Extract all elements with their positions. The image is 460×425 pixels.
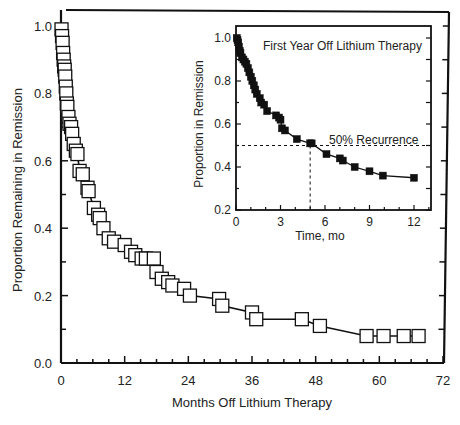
data-point-filled-square <box>411 174 418 181</box>
data-point-open-square <box>216 299 229 312</box>
inset-y-tick-label: 0.6 <box>214 117 231 131</box>
data-point-filled-square <box>379 172 386 179</box>
inset-y-tick-label: 0.2 <box>214 203 231 217</box>
data-point-filled-square <box>351 164 358 171</box>
main-x-axis-title: Months Off Lithium Therapy <box>172 395 332 410</box>
data-point-filled-square <box>293 136 300 143</box>
data-point-open-square <box>313 319 326 332</box>
main-x-tick-label: 24 <box>181 373 195 388</box>
fifty-percent-annotation: 50% Recurrence <box>329 133 419 147</box>
data-point-open-square <box>76 168 89 181</box>
data-point-filled-square <box>264 108 271 115</box>
data-point-open-square <box>377 330 390 343</box>
data-point-filled-square <box>366 168 373 175</box>
main-x-tick-label: 0 <box>57 373 64 388</box>
main-x-tick-label: 60 <box>372 373 386 388</box>
data-point-open-square <box>82 185 95 198</box>
inset-y-tick-label: 1.0 <box>214 31 231 45</box>
inset-x-tick-label: 3 <box>277 215 284 229</box>
main-y-tick-label: 1.0 <box>34 19 52 34</box>
data-point-open-square <box>147 252 160 265</box>
data-point-open-square <box>250 313 263 326</box>
data-point-open-square <box>397 330 410 343</box>
data-point-filled-square <box>261 101 268 108</box>
data-point-open-square <box>360 330 373 343</box>
data-point-open-square <box>412 330 425 343</box>
data-point-filled-square <box>339 157 346 164</box>
survival-chart: 01224364860720.00.20.40.60.81.0 Months O… <box>0 0 460 425</box>
main-y-tick-label: 0.6 <box>34 154 52 169</box>
data-point-filled-square <box>281 127 288 134</box>
inset-x-tick-label: 9 <box>366 215 373 229</box>
inset-x-tick-label: 6 <box>322 215 329 229</box>
inset-x-axis-title: Time, mo <box>295 229 345 243</box>
inset-x-tick-label: 0 <box>233 215 240 229</box>
data-point-open-square <box>183 289 196 302</box>
inset-title: First Year Off Lithium Therapy <box>263 39 422 53</box>
main-y-axis-title: Proportion Remaining in Remission <box>10 88 25 292</box>
main-y-tick-label: 0.2 <box>34 289 52 304</box>
inset-y-axis-title: Proportion in Remission <box>192 60 206 187</box>
inset-y-tick-label: 0.8 <box>214 74 231 88</box>
inset-chart: 0369120.20.40.60.81.0 First Year Off Lit… <box>192 26 431 243</box>
data-point-open-square <box>71 148 84 161</box>
main-x-tick-label: 72 <box>436 373 450 388</box>
main-x-tick-label: 12 <box>117 373 131 388</box>
main-y-tick-label: 0.0 <box>34 356 52 371</box>
main-x-tick-label: 48 <box>308 373 322 388</box>
data-point-filled-square <box>323 151 330 158</box>
data-point-filled-square <box>277 116 284 123</box>
data-point-filled-square <box>308 140 315 147</box>
inset-y-tick-label: 0.4 <box>214 160 231 174</box>
main-y-tick-label: 0.4 <box>34 221 52 236</box>
inset-x-tick-label: 12 <box>407 215 421 229</box>
main-x-tick-label: 36 <box>245 373 259 388</box>
data-point-open-square <box>295 313 308 326</box>
main-y-tick-label: 0.8 <box>34 86 52 101</box>
